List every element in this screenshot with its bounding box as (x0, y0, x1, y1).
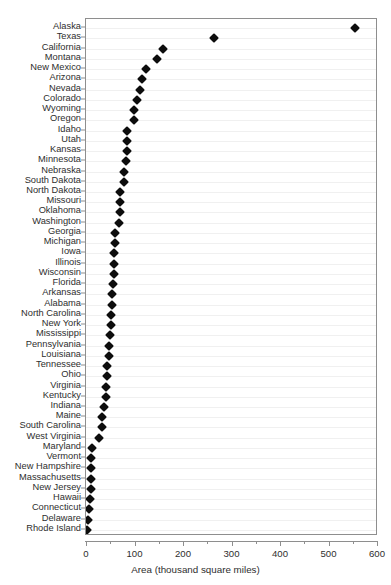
gridline (86, 79, 376, 80)
x-tick-minor (353, 541, 354, 544)
data-point (85, 504, 94, 514)
data-point (137, 74, 147, 84)
plot-area (85, 18, 377, 535)
gridline (86, 335, 376, 336)
gridline (86, 100, 376, 101)
gridline (86, 325, 376, 326)
x-tick-major (280, 541, 281, 546)
x-tick-minor (256, 541, 257, 544)
gridline (86, 458, 376, 459)
gridline (86, 274, 376, 275)
gridline (86, 438, 376, 439)
data-point (104, 351, 114, 361)
data-point (116, 187, 126, 197)
data-point (129, 115, 139, 125)
x-tick-label: 400 (272, 548, 288, 559)
gridline (86, 397, 376, 398)
data-point (350, 23, 360, 33)
data-point (87, 443, 97, 453)
gridline (86, 212, 376, 213)
x-tick-label: 100 (126, 548, 142, 559)
x-axis-title: Area (thousand square miles) (0, 564, 391, 575)
gridline (86, 417, 376, 418)
x-tick-major (135, 541, 136, 546)
gridline (86, 202, 376, 203)
data-point (106, 310, 116, 320)
x-tick-minor (207, 541, 208, 544)
x-tick-major (377, 541, 378, 546)
category-axis-ticks (0, 18, 85, 535)
data-point (105, 330, 115, 340)
data-point (106, 320, 116, 330)
gridline (86, 366, 376, 367)
data-point (85, 525, 92, 535)
gridline (86, 49, 376, 50)
gridline (86, 448, 376, 449)
data-point (109, 259, 119, 269)
data-point (110, 228, 120, 238)
x-tick-label: 200 (175, 548, 191, 559)
data-point (107, 289, 117, 299)
data-point (158, 44, 168, 54)
gridline (86, 315, 376, 316)
data-point (129, 105, 139, 115)
data-point (209, 33, 219, 43)
data-point (107, 300, 117, 310)
data-point (104, 341, 114, 351)
x-tick-major (183, 541, 184, 546)
x-tick-label: 300 (223, 548, 239, 559)
gridline (86, 427, 376, 428)
data-point (86, 484, 96, 494)
data-point (116, 197, 126, 207)
data-point (141, 64, 151, 74)
data-point (114, 218, 124, 228)
data-point (94, 433, 104, 443)
gridline (86, 59, 376, 60)
gridline (86, 489, 376, 490)
gridline (86, 387, 376, 388)
data-point (110, 238, 120, 248)
gridline (86, 253, 376, 254)
data-point (109, 269, 119, 279)
data-point (119, 167, 129, 177)
data-point (108, 279, 118, 289)
gridline (86, 223, 376, 224)
data-point (152, 54, 162, 64)
data-point (85, 494, 95, 504)
data-point (132, 95, 142, 105)
data-point (109, 248, 119, 258)
data-point (101, 392, 111, 402)
x-tick-major (86, 541, 87, 546)
x-tick-major (329, 541, 330, 546)
data-point (86, 474, 96, 484)
data-point (86, 463, 96, 473)
x-tick-label: 0 (83, 548, 88, 559)
gridline (86, 172, 376, 173)
gridline (86, 499, 376, 500)
gridline (86, 233, 376, 234)
gridline (86, 376, 376, 377)
x-tick-label: 500 (320, 548, 336, 559)
data-point (135, 85, 145, 95)
gridline (86, 479, 376, 480)
gridline (86, 407, 376, 408)
data-point (101, 382, 111, 392)
dot-plot-figure: AlaskaTexasCaliforniaMontanaNew MexicoAr… (0, 0, 391, 585)
data-point (122, 126, 132, 136)
gridline (86, 243, 376, 244)
data-point (102, 361, 112, 371)
gridline (86, 520, 376, 521)
x-tick-major (232, 541, 233, 546)
data-point (119, 177, 129, 187)
data-point (97, 412, 107, 422)
gridline (86, 28, 376, 29)
gridline (86, 305, 376, 306)
gridline (86, 530, 376, 531)
gridline (86, 509, 376, 510)
gridline (86, 69, 376, 70)
data-point (85, 515, 93, 525)
data-point (122, 146, 132, 156)
gridline (86, 468, 376, 469)
x-tick-minor (159, 541, 160, 544)
gridline (86, 356, 376, 357)
